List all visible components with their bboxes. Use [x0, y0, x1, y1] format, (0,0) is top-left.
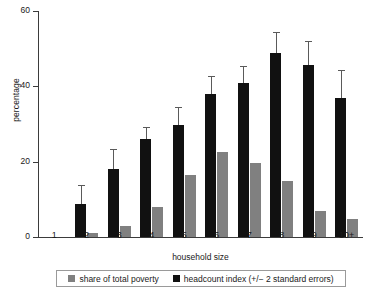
y-tick-label-40: 40 [21, 80, 30, 90]
bar-share-of-total-poverty-6 [217, 152, 228, 238]
bar-group-4 [136, 11, 169, 237]
bar-headcount-index-9 [303, 65, 314, 237]
error-bar-5 [178, 107, 179, 125]
bar-group-1 [38, 11, 71, 237]
x-tick-label-3: 3 [103, 230, 136, 240]
error-bar-10+ [341, 70, 342, 97]
chart-figure: percentage 0204060 12345678910+ househol… [0, 0, 371, 295]
x-tick-label-4: 4 [136, 230, 169, 240]
error-bar-9 [308, 41, 309, 65]
error-bar-cap-2 [78, 185, 85, 186]
bar-group-6 [201, 11, 234, 237]
chart-legend: share of total poverty headcount index (… [56, 270, 346, 287]
bar-group-10+ [331, 11, 364, 237]
bar-group-7 [233, 11, 266, 237]
error-bar-8 [276, 32, 277, 53]
x-tick-label-2: 2 [71, 230, 104, 240]
legend-swatch-gray-icon [68, 275, 75, 282]
x-tick-label-9: 9 [298, 230, 331, 240]
x-tick-label-7: 7 [233, 230, 266, 240]
legend-label-headcount-index: headcount index (+/− 2 standard errors) [184, 274, 334, 284]
bar-group-5 [168, 11, 201, 237]
bar-headcount-index-5 [173, 125, 184, 237]
bar-headcount-index-10+ [335, 98, 346, 237]
plot-area: 0204060 [38, 11, 363, 237]
y-tick-label-20: 20 [21, 156, 30, 166]
legend-swatch-black-icon [173, 275, 180, 282]
x-tick-label-10+: 10+ [331, 230, 364, 240]
bar-headcount-index-8 [270, 53, 281, 237]
bar-headcount-index-6 [205, 94, 216, 237]
x-axis-title: household size [38, 252, 363, 262]
legend-label-share-of-total-poverty: share of total poverty [79, 274, 158, 284]
bar-headcount-index-7 [238, 83, 249, 237]
x-tick-label-6: 6 [201, 230, 234, 240]
y-tick-label-0: 0 [25, 231, 30, 241]
error-bar-cap-10+ [338, 70, 345, 71]
x-tick-label-5: 5 [168, 230, 201, 240]
error-bar-3 [113, 149, 114, 169]
error-bar-cap-7 [240, 66, 247, 67]
x-tick-label-1: 1 [38, 230, 71, 240]
bar-share-of-total-poverty-5 [185, 175, 196, 237]
y-axis-title: percentage [11, 60, 21, 140]
error-bar-cap-4 [143, 127, 150, 128]
legend-item-share-of-total-poverty: share of total poverty [68, 274, 158, 284]
error-bar-cap-5 [175, 107, 182, 108]
x-tick-label-8: 8 [266, 230, 299, 240]
bar-group-2 [71, 11, 104, 237]
error-bar-cap-8 [273, 32, 280, 33]
bar-share-of-total-poverty-7 [250, 163, 261, 237]
error-bar-6 [211, 76, 212, 94]
error-bar-cap-9 [305, 41, 312, 42]
bar-group-9 [298, 11, 331, 237]
bar-share-of-total-poverty-8 [282, 181, 293, 237]
bar-group-8 [266, 11, 299, 237]
error-bar-cap-6 [208, 76, 215, 77]
bar-headcount-index-3 [108, 169, 119, 237]
bar-headcount-index-4 [140, 139, 151, 237]
error-bar-4 [146, 127, 147, 139]
error-bar-7 [243, 66, 244, 83]
y-tick-label-60: 60 [21, 5, 30, 15]
bar-group-3 [103, 11, 136, 237]
error-bar-cap-3 [110, 149, 117, 150]
error-bar-2 [81, 185, 82, 203]
legend-item-headcount-index: headcount index (+/− 2 standard errors) [173, 274, 334, 284]
